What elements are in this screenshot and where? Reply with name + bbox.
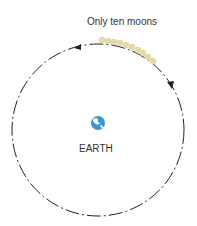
- earth-label: EARTH: [79, 143, 113, 154]
- moons-label: Only ten moons: [87, 16, 157, 27]
- orbit-diagram: [0, 0, 197, 226]
- earth-icon: [91, 116, 105, 130]
- moons-group: [99, 37, 157, 65]
